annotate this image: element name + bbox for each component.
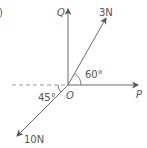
force-diagram: ) Q P 3N 60° 10N 45° O <box>0 0 147 148</box>
angle-60-label: 60° <box>85 69 103 80</box>
part-label: ) <box>0 7 3 18</box>
force-3n-label: 3N <box>99 7 113 18</box>
angle-arc-60 <box>75 74 82 85</box>
p-axis-label: P <box>136 89 143 100</box>
force-10n-label: 10N <box>24 134 44 145</box>
angle-arc-45 <box>58 85 61 92</box>
q-axis-label: Q <box>57 7 65 18</box>
angle-45-label: 45° <box>38 92 56 103</box>
origin-label: O <box>66 90 74 101</box>
